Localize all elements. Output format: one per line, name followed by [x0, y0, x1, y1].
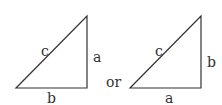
right-triangle-diagram: c a b or c b a [0, 0, 222, 105]
triangle-2-shape [130, 16, 201, 88]
or-connector-label: or [106, 74, 121, 90]
triangle-2: c b a [130, 16, 216, 105]
triangle-2-vertical-label: b [207, 54, 216, 70]
triangle-2-horizontal-label: a [165, 90, 173, 105]
triangle-1-vertical-label: a [93, 49, 101, 65]
triangle-2-hypotenuse-label: c [155, 43, 163, 59]
triangle-1-horizontal-label: b [47, 90, 56, 105]
triangle-1: c a b [16, 16, 101, 105]
triangle-1-shape [16, 16, 87, 88]
triangle-1-hypotenuse-label: c [41, 43, 49, 59]
diagram-canvas: c a b or c b a [0, 0, 222, 105]
